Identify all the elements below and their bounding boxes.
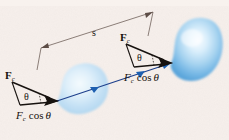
- label-component-left: Fccosθ: [16, 110, 51, 123]
- label-theta-left: θ: [24, 92, 29, 102]
- component-operator-left: cos: [29, 109, 44, 121]
- label-force-right: Fc: [120, 32, 130, 45]
- component-angle-right: θ: [153, 71, 158, 83]
- component-symbol-right: F: [124, 71, 131, 83]
- component-subscript-left: c: [23, 115, 26, 122]
- label-force-left: Fc: [5, 70, 15, 83]
- label-displacement: s: [92, 28, 96, 38]
- force-subscript-right: c: [127, 37, 130, 44]
- component-subscript-right: c: [131, 77, 134, 84]
- force-symbol-right: F: [120, 31, 127, 43]
- component-angle-left: θ: [45, 109, 50, 121]
- label-component-right: Fccosθ: [124, 72, 159, 85]
- label-theta-right: θ: [137, 53, 142, 63]
- force-symbol-left: F: [5, 69, 12, 81]
- component-symbol-left: F: [16, 109, 23, 121]
- force-subscript-left: c: [12, 75, 15, 82]
- component-operator-right: cos: [137, 71, 152, 83]
- physics-figure-work-constant-force: Fc Fc Fccosθ Fccosθ θ θ s: [0, 0, 229, 140]
